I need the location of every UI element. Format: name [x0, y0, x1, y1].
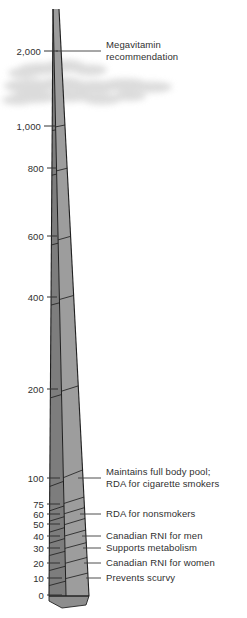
axis-tick-label: 1,000 [16, 121, 41, 132]
axis-tick-label: 40 [33, 531, 44, 542]
axis-tick-label: 600 [28, 231, 44, 242]
callout-label-line2: recommendation [106, 51, 178, 62]
axis-tick-label: 0 [39, 590, 44, 601]
axis-tick-label: 50 [33, 519, 44, 530]
callout-label-line1: Supports metabolism [106, 542, 197, 553]
axis-tick-label: 30 [33, 543, 44, 554]
axis-tick-label: 20 [33, 558, 44, 569]
chart-svg: 2,000 1,000 800 600 400 200 100 [0, 0, 247, 618]
callout-label-line1: Canadian RNI for women [106, 557, 215, 568]
callout-label-line1: Maintains full body pool; [106, 466, 210, 477]
callout-label-line1: Prevents scurvy [106, 572, 175, 583]
axis-tick-label: 800 [28, 163, 44, 174]
callout-label-line1: RDA for nonsmokers [106, 508, 196, 519]
axis-tick-label: 100 [28, 473, 44, 484]
callout-label-line1: Megavitamin [106, 39, 161, 50]
vitamin-c-intake-chart: 2,000 1,000 800 600 400 200 100 [0, 0, 247, 618]
axis-tick-label: 2,000 [16, 46, 41, 57]
axis-tick-label: 200 [28, 384, 44, 395]
axis-tick-label: 400 [28, 292, 44, 303]
axis-tick-label: 10 [33, 573, 44, 584]
callout-label-line1: Canadian RNI for men [106, 530, 203, 541]
callout-label-line2: RDA for cigarette smokers [106, 478, 220, 489]
